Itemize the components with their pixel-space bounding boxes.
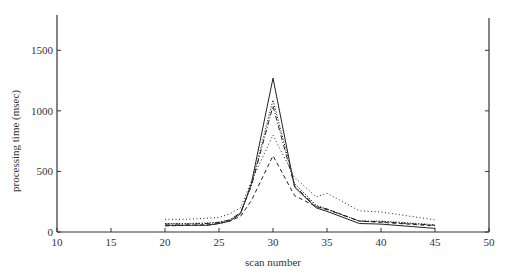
x-tick-label: 25 bbox=[214, 236, 226, 248]
x-tick-label: 35 bbox=[322, 236, 334, 248]
series-line-dashed bbox=[165, 156, 435, 226]
x-tick-label: 15 bbox=[106, 236, 118, 248]
x-tick-label: 45 bbox=[430, 236, 442, 248]
series-line-solid bbox=[165, 78, 435, 228]
x-tick-label: 10 bbox=[52, 236, 64, 248]
x-tick-label: 20 bbox=[160, 236, 172, 248]
series-group bbox=[165, 78, 435, 228]
x-tick-label: 40 bbox=[376, 236, 388, 248]
axes: 101520253035404550050010001500 bbox=[31, 15, 495, 248]
x-tick-label: 50 bbox=[484, 236, 496, 248]
series-line-fine-dotted bbox=[165, 100, 435, 225]
line-chart: 101520253035404550050010001500 scan numb… bbox=[0, 0, 507, 275]
y-tick-label: 1500 bbox=[31, 44, 54, 56]
series-line-dotted bbox=[165, 135, 435, 220]
y-axis-title: processing time (msec) bbox=[9, 90, 22, 192]
x-axis-title: scan number bbox=[245, 256, 301, 268]
y-tick-label: 0 bbox=[48, 226, 54, 238]
series-line-dash-dot bbox=[165, 106, 435, 225]
x-tick-label: 30 bbox=[268, 236, 280, 248]
y-tick-label: 500 bbox=[37, 165, 54, 177]
y-tick-label: 1000 bbox=[31, 105, 54, 117]
